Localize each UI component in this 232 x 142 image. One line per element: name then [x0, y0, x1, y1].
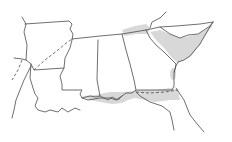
border-texas-arkansas	[14, 58, 26, 60]
state-borders	[12, 12, 213, 132]
border-mississippi	[60, 40, 100, 98]
border-texas-dashed	[12, 60, 22, 80]
border-alabama	[100, 34, 136, 100]
border-nc-tn	[150, 12, 166, 28]
southeast-us-outline-map	[0, 0, 232, 142]
border-dashed-diagonal	[34, 39, 72, 70]
border-louisiana-west	[12, 66, 31, 118]
border-louisiana	[30, 64, 80, 112]
